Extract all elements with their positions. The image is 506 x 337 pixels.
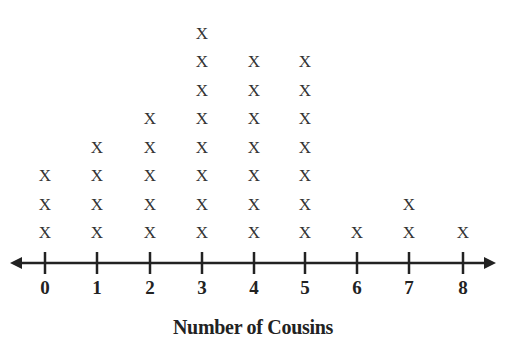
x-mark: X <box>87 139 107 156</box>
x-mark: X <box>192 53 212 70</box>
x-mark: X <box>192 82 212 99</box>
x-mark: X <box>347 224 367 241</box>
tick-label: 4 <box>249 277 259 299</box>
x-mark: X <box>453 224 473 241</box>
tick-label: 1 <box>92 277 102 299</box>
x-mark: X <box>140 110 160 127</box>
tick-label: 7 <box>404 277 414 299</box>
tick-label: 3 <box>197 277 207 299</box>
x-mark: X <box>295 82 315 99</box>
x-mark: X <box>244 167 264 184</box>
x-mark: X <box>192 167 212 184</box>
x-mark: X <box>244 224 264 241</box>
x-mark: X <box>87 167 107 184</box>
x-mark: X <box>295 139 315 156</box>
x-mark: X <box>140 224 160 241</box>
tick-label: 5 <box>300 277 310 299</box>
x-mark: X <box>295 110 315 127</box>
x-mark: X <box>140 167 160 184</box>
x-mark: X <box>295 167 315 184</box>
x-mark: X <box>399 196 419 213</box>
x-mark: X <box>295 53 315 70</box>
tick-label: 6 <box>352 277 362 299</box>
x-mark: X <box>140 196 160 213</box>
tick-label: 8 <box>458 277 468 299</box>
x-mark: X <box>35 196 55 213</box>
x-mark: X <box>87 224 107 241</box>
x-mark: X <box>140 139 160 156</box>
x-mark: X <box>399 224 419 241</box>
x-mark: X <box>295 196 315 213</box>
x-mark: X <box>87 196 107 213</box>
right-arrow-icon <box>484 257 496 269</box>
x-mark: X <box>35 224 55 241</box>
x-mark: X <box>244 82 264 99</box>
x-mark: X <box>244 139 264 156</box>
x-mark: X <box>192 25 212 42</box>
x-axis-title: Number of Cousins <box>0 316 506 337</box>
x-mark: X <box>192 139 212 156</box>
x-mark: X <box>192 196 212 213</box>
x-mark: X <box>244 110 264 127</box>
tick-label: 0 <box>40 277 50 299</box>
x-mark: X <box>192 224 212 241</box>
x-mark: X <box>244 196 264 213</box>
tick-label: 2 <box>145 277 155 299</box>
x-mark: X <box>295 224 315 241</box>
left-arrow-icon <box>10 257 22 269</box>
x-mark: X <box>192 110 212 127</box>
x-mark: X <box>35 167 55 184</box>
x-mark: X <box>244 53 264 70</box>
dot-plot: XXXXXXXXXXXXXXXXXXXXXXXXXXXXXXXXXXXXXX 0… <box>0 0 506 337</box>
